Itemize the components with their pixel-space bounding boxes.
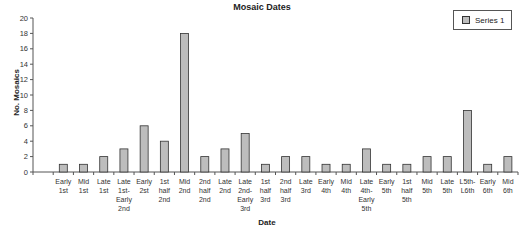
bar [342, 164, 350, 172]
x-tick-label: Mid1st [73, 177, 95, 195]
bar [484, 164, 492, 172]
bar [181, 33, 189, 172]
y-tick-label: 4 [24, 137, 28, 146]
bar [443, 157, 451, 172]
x-tick-label: 1sthalf3rd [254, 177, 276, 204]
bar [241, 134, 249, 173]
x-tick-label: Late3rd [295, 177, 317, 195]
bar [322, 164, 330, 172]
x-tick-label: Late2nd [214, 177, 236, 195]
bar [383, 164, 391, 172]
x-tick-label: Early6th [477, 177, 499, 195]
x-tick-label: Early5th [376, 177, 398, 195]
bar [201, 157, 209, 172]
bar [120, 149, 128, 172]
bar [221, 149, 229, 172]
bar [362, 149, 370, 172]
x-tick-label: Early1st [52, 177, 74, 195]
bar [423, 157, 431, 172]
y-tick-label: 12 [20, 75, 28, 84]
bar [140, 126, 148, 172]
bar [59, 164, 67, 172]
legend-swatch [462, 16, 470, 24]
x-tick-label: Mid6th [497, 177, 519, 195]
y-tick-label: 0 [24, 168, 28, 177]
x-tick-label: Late4th-Early5th [355, 177, 377, 213]
x-tick-label: 1sthalf5th [396, 177, 418, 204]
y-tick-label: 2 [24, 152, 28, 161]
y-tick-label: 6 [24, 121, 28, 130]
y-tick-label: 18 [20, 29, 28, 38]
bar [463, 110, 471, 172]
y-tick-label: 10 [20, 91, 28, 100]
y-tick-label: 16 [20, 44, 28, 53]
bar [160, 141, 168, 172]
bar [302, 157, 310, 172]
y-tick-label: 20 [20, 14, 28, 23]
x-tick-label: Mid4th [335, 177, 357, 195]
x-tick-label: Late5th [436, 177, 458, 195]
x-tick-label: Late1st [93, 177, 115, 195]
y-tick-label: 8 [24, 106, 28, 115]
x-tick-label: 1sthalf2nd [153, 177, 175, 204]
x-tick-label: Late1st-Early2nd [113, 177, 135, 213]
bar [100, 157, 108, 172]
x-tick-label: 2ndhalf3rd [275, 177, 297, 204]
x-tick-label: L5th-L6th [456, 177, 478, 195]
x-tick-label: Early2st [133, 177, 155, 195]
bar [282, 157, 290, 172]
x-tick-label: 2ndhalf2nd [194, 177, 216, 204]
legend: Series 1 [453, 10, 512, 30]
bar [80, 164, 88, 172]
x-tick-label: Late2nd-Early3rd [234, 177, 256, 213]
legend-label: Series 1 [475, 16, 504, 25]
bar [403, 164, 411, 172]
bar [261, 164, 269, 172]
x-tick-label: Mid5th [416, 177, 438, 195]
x-tick-label: Mid2nd [174, 177, 196, 195]
y-tick-label: 14 [20, 60, 28, 69]
x-tick-label: Early4th [315, 177, 337, 195]
bar [504, 157, 512, 172]
